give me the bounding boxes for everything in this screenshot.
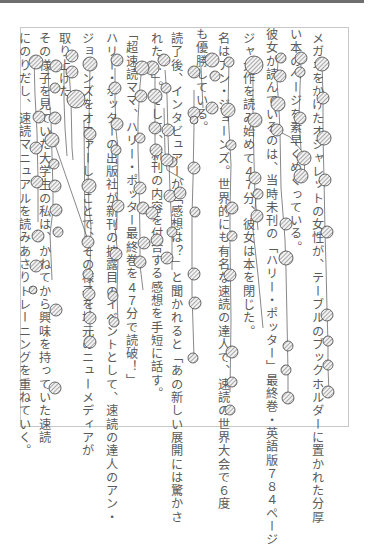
text-column-14: にのりだし、速読マニュアルを読みあさりトレーニングを重ねていく。 (17, 32, 31, 458)
text-column-8: れた…」。そして、新刊の内容を付合する感想を手短に話す。 (149, 32, 163, 400)
text-column-10: ハリー・ポッターの出版社が新刊の披露目のイベントとして、速読の達人のアン・ (104, 32, 118, 524)
text-column-13: その様子を見ていた大学生の私は、かねてから興味を持っていた速読 (37, 32, 51, 444)
text-column-4: ジャ大作を読み始めて４７分、彼女は本を閉じた。 (241, 32, 255, 338)
text-column-6: も優勝している。 (194, 28, 208, 134)
text-column-7: 読了後、インタビュアーが「感想は？」と聞かれると「あの新しい展開には驚かさ (169, 32, 183, 524)
text-column-12: 取り上げた。 (57, 32, 71, 112)
text-column-3: 彼女が読んでいるのは、当時未刊の「ハリー・ポッター」最終巻・英語版７８４ページ (264, 28, 278, 547)
text-column-9: 「超速読ママ、ハリー・ポッター最終巻を４７分で読破！」 (124, 28, 138, 387)
document-frame: メガネをかけたオシャレットの女性が、テーブルのブックホルダーに置かれた分厚 い本… (20, 27, 349, 427)
top-rule (0, 0, 364, 3)
text-column-2: い本のページを素早くめくっている。 (288, 28, 302, 254)
text-column-5: 名はアン・ジョーンズ。世界的にも有名な速読の達人で、速読の世界大会で６度 (216, 32, 230, 511)
text-column-1: メガネをかけたオシャレットの女性が、テーブルのブックホルダーに置かれた分厚 (310, 32, 324, 524)
text-column-11: ジョーンズをオファーしたことで、その様子を地元のニューメディアが (80, 32, 94, 458)
